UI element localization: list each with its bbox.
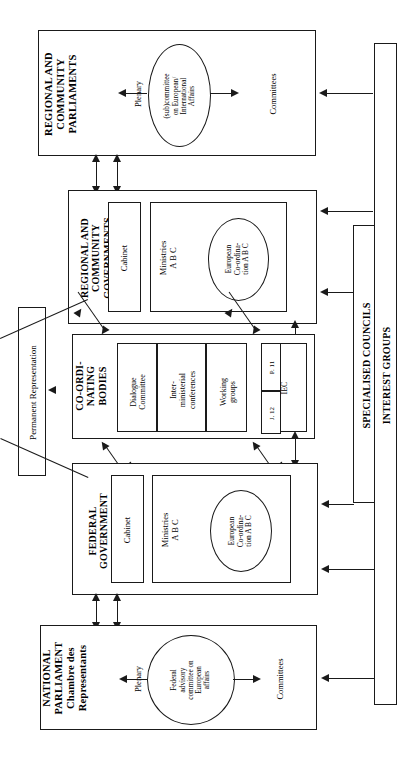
coordinating-bodies-heading: CO-ORDI- NATING BODIES (69, 336, 113, 436)
national-parliament-oval: Federal advisory committee on European a… (147, 635, 235, 725)
arrow-natoval-to-plenary-head (119, 675, 127, 683)
coordinating-bodies-interministerial-conferences: Inter- ministerial conferences (157, 343, 206, 432)
arrow-oval-to-plenary-line (125, 93, 147, 94)
regional-parliaments-oval: (sub)committee on European/ Internationa… (148, 44, 211, 147)
link-regparl-reggov-head-1-up (92, 154, 100, 162)
arrow-natoval-to-plenary-line (126, 679, 147, 680)
arrow-interestgroups-to-reggov-head (320, 207, 328, 215)
block-federal-government: FEDERAL GOVERNMENT Cabinet Ministries A … (72, 463, 318, 595)
federal-government-ministries-box: Ministries A B C European Co-ordina- tio… (152, 475, 291, 583)
regional-parliaments-oval-label: (sub)committee on European/ Internationa… (159, 47, 201, 145)
arrow-specialisedcouncils-to-reggov-head (320, 288, 328, 296)
block-interest-groups: INTEREST GROUPS (374, 43, 397, 705)
federal-government-ministries-label: Ministries A B C (155, 495, 187, 565)
arrow-interestgroups-to-fedgov-line (329, 569, 374, 570)
arrow-specialisedcouncils-to-reggov-line (328, 292, 353, 293)
regional-governments-oval: European Co-ordina- tion A B C (208, 218, 269, 301)
federal-government-oval: European Co-ordina- tion A B C (210, 490, 272, 572)
coordinating-bodies-working-groups: Working groups (206, 343, 247, 432)
interministerial-conferences-label: Inter- ministerial conferences (167, 351, 199, 430)
block-national-parliament: NATIONAL PARLIAMENT Chambre des Represen… (40, 625, 317, 730)
link-regparl-reggov-line-2 (117, 160, 118, 188)
link-fedgov-natparl-head-1-up (92, 593, 100, 601)
block-regional-governments: REGIONAL AND COMMUNITY GOVERNMENTS Cabin… (68, 190, 317, 324)
interest-groups-label: INTEREST GROUPS (378, 309, 395, 443)
arrow-specialisedcouncils-to-fedgov-line (329, 504, 354, 505)
link-iec-reggov-head-up (291, 320, 299, 328)
block-coordinating-bodies: CO-ORDI- NATING BODIES Dialogue Committe… (72, 334, 315, 439)
regional-parliaments-committees: Committees (252, 34, 296, 154)
national-parliament-oval-label: Federal advisory committee on European a… (169, 635, 213, 725)
national-parliament-committees: Committees (259, 619, 303, 739)
link-regparl-reggov-head-2-up (113, 154, 121, 162)
arrow-interestgroups-to-reggov-line (328, 211, 373, 212)
regional-governments-ministries-box: Ministries A B C European Co-ordina- tio… (150, 202, 287, 312)
federal-government-cabinet-label: Cabinet (120, 492, 136, 568)
federal-government-oval-label: European Co-ordina- tion A B C (225, 491, 257, 571)
arrow-interestgroups-to-natparl-line (329, 678, 374, 679)
arrow-oval-to-committees-head (231, 89, 239, 97)
regional-governments-ministries-label: Ministries A B C (153, 223, 185, 293)
arrow-specialisedcouncils-to-fedgov-head (321, 500, 329, 508)
iec-label: IEC (278, 371, 292, 405)
dialogue-committee-label: Dialogue Committee (127, 352, 149, 432)
arrow-permrep-head (48, 386, 56, 394)
iec-sub-box-p11-label: P. 11 (266, 344, 279, 392)
arrow-interestgroups-to-regparliaments-head (319, 89, 327, 97)
coordinating-bodies-iec-box: P. 11 J. 12 IEC (261, 343, 307, 432)
iec-sub-box-j12-label: J. 12 (266, 392, 279, 436)
block-permanent-representation: Permanent Representation (18, 307, 46, 476)
link-iec-fedgov-head-up (291, 431, 299, 439)
federal-government-heading: FEDERAL GOVERNMENT (83, 471, 113, 591)
arrow-natoval-to-committees-head (253, 675, 261, 683)
regional-governments-cabinet-box: Cabinet (108, 202, 141, 312)
regional-governments-cabinet-label: Cabinet (117, 220, 133, 296)
federal-government-cabinet-box: Cabinet (111, 475, 144, 583)
working-groups-label: Working groups (217, 353, 239, 432)
regional-governments-oval-label: European Co-ordina- tion A B C (222, 220, 254, 298)
national-parliament-heading: NATIONAL PARLIAMENT Chambre des Represen… (35, 613, 95, 743)
arrow-natoval-to-committees-line (233, 679, 254, 680)
arrow-oval-to-plenary-head (118, 89, 126, 97)
arrow-interestgroups-to-fedgov-head (321, 565, 329, 573)
arrow-interestgroups-to-regparliaments-line (327, 93, 373, 94)
specialised-councils-label: SPECIALISED COUNCILS (358, 289, 375, 443)
diagram-canvas: REGIONAL AND COMMUNITY PARLIAMENTS Plena… (0, 0, 415, 762)
link-regparl-reggov-line-1 (96, 160, 97, 188)
block-regional-parliaments: REGIONAL AND COMMUNITY PARLIAMENTS Plena… (38, 30, 316, 156)
coordinating-bodies-dialogue-committee: Dialogue Committee (117, 343, 157, 432)
permanent-representation-label: Permanent Representation (25, 323, 42, 463)
arrow-oval-to-committees-line (210, 93, 232, 94)
arrow-interestgroups-to-natparl-head (321, 674, 329, 682)
link-fedgov-natparl-head-2-up (113, 593, 121, 601)
regional-parliaments-heading: REGIONAL AND COMMUNITY PARLIAMENTS (39, 34, 83, 154)
